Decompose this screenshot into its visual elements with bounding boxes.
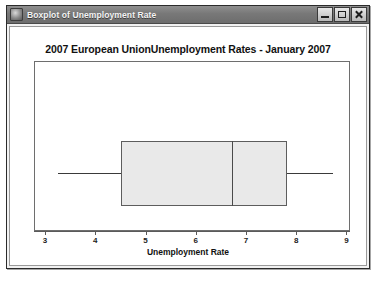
box-iqr <box>121 141 287 206</box>
x-axis-tick <box>45 231 46 235</box>
x-axis-tick <box>296 231 297 235</box>
maximize-icon <box>338 11 346 18</box>
x-axis-tick-label: 9 <box>336 236 356 245</box>
app-icon <box>10 8 23 21</box>
application-window: Boxplot of Unemployment Rate 2007 Europe… <box>6 5 370 269</box>
x-axis-tick-label: 7 <box>236 236 256 245</box>
window-title: Boxplot of Unemployment Rate <box>27 10 316 20</box>
x-axis-label: Unemployment Rate <box>10 247 366 257</box>
x-axis-tick <box>196 231 197 235</box>
minimize-button[interactable] <box>317 7 333 22</box>
x-axis-tick-label: 8 <box>286 236 306 245</box>
plot-frame <box>34 61 350 231</box>
x-axis-tick <box>95 231 96 235</box>
x-axis-line <box>34 231 350 232</box>
maximize-button[interactable] <box>334 7 350 22</box>
whisker-right <box>287 173 333 174</box>
chart-title: 2007 European UnionUnemployment Rates - … <box>10 43 366 55</box>
x-axis-tick-label: 3 <box>35 236 55 245</box>
x-axis-tick <box>246 231 247 235</box>
minimize-icon <box>321 16 329 18</box>
whisker-left <box>58 173 121 174</box>
close-button[interactable] <box>351 7 367 22</box>
median-line <box>232 141 233 206</box>
window-client-area: 2007 European UnionUnemployment Rates - … <box>9 26 367 266</box>
boxplot-chart: 2007 European UnionUnemployment Rates - … <box>10 27 366 265</box>
title-bar[interactable]: Boxplot of Unemployment Rate <box>7 6 369 24</box>
x-axis-tick-label: 5 <box>136 236 156 245</box>
x-axis-tick <box>146 231 147 235</box>
x-axis-tick-label: 6 <box>186 236 206 245</box>
x-axis-tick-label: 4 <box>85 236 105 245</box>
x-axis-tick <box>346 231 347 235</box>
